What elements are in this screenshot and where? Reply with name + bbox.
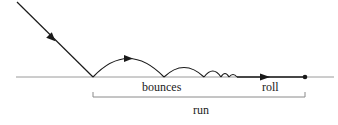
bounce-arcs (93, 59, 237, 78)
stop-point (303, 75, 308, 80)
run-label: run (193, 103, 209, 117)
ball-trajectory-diagram: bounces roll run (0, 0, 338, 125)
incoming-trajectory (17, 2, 93, 77)
roll-label: roll (262, 80, 279, 94)
bounce-arrow-icon (124, 55, 133, 62)
bounces-label: bounces (142, 80, 182, 94)
incoming-arrow-icon (46, 32, 58, 44)
